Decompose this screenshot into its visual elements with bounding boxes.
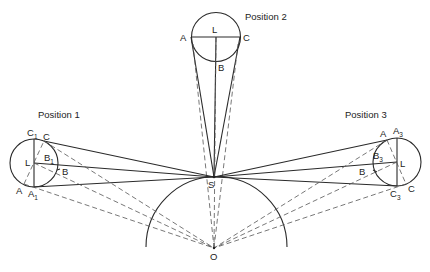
position2-line-l-s <box>214 37 216 177</box>
position3-label-c: C <box>408 183 415 194</box>
position3-label-a: A <box>380 128 387 139</box>
position1-label-b: B <box>62 166 68 177</box>
position3-label-b: B <box>359 166 365 177</box>
point-o <box>213 247 215 249</box>
position1-label-b1: B1 <box>44 152 54 165</box>
position3-line-c3-s <box>214 177 397 186</box>
position2-line-c-s <box>214 37 240 177</box>
position1-dash-a-o <box>24 184 214 248</box>
position1-label-c1: C1 <box>27 127 38 140</box>
position3-label-l: L <box>400 158 405 169</box>
position1-line-a1-s <box>34 177 214 187</box>
position3-dash-a-o <box>214 140 387 248</box>
label-s: S <box>208 179 214 190</box>
position1-line-l-s <box>34 163 214 177</box>
position3-label: Position 3 <box>345 109 387 120</box>
position1-dash-c-o <box>44 141 214 248</box>
position1-line-c-s <box>44 141 214 177</box>
position2-label-l: L <box>212 24 217 35</box>
position3-label-a3: A3 <box>393 125 403 138</box>
position2-label: Position 2 <box>245 11 287 22</box>
position3-label-c3: C3 <box>390 188 401 201</box>
position1-label-a: A <box>16 185 23 196</box>
position2-dash-a-o <box>193 44 214 248</box>
position1-label-c: C <box>43 131 50 142</box>
position3-line-l-s <box>214 162 397 177</box>
position1-label-l: L <box>25 157 30 168</box>
label-o: O <box>210 251 217 262</box>
position2-dash-c-o <box>214 44 238 248</box>
geometry-diagram: Position 2 A C L B Position 1 C1 C L B1 … <box>0 0 430 272</box>
position2-label-c: C <box>243 32 250 43</box>
position1-dash-l-o <box>34 163 214 248</box>
point-s <box>213 176 215 178</box>
position2-label-a: A <box>180 32 187 43</box>
position3-dash-c-o <box>214 184 406 248</box>
position3-label-b3: B3 <box>373 150 383 163</box>
earth-arc <box>146 177 287 248</box>
position1-label: Position 1 <box>38 109 80 120</box>
position2-label-b: B <box>218 62 224 73</box>
position1-label-a1: A1 <box>28 188 38 201</box>
